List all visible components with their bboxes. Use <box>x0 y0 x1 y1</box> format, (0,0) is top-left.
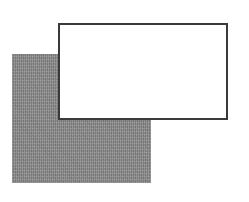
diagram-canvas <box>0 0 249 202</box>
white-outlined-rectangle <box>58 23 228 120</box>
